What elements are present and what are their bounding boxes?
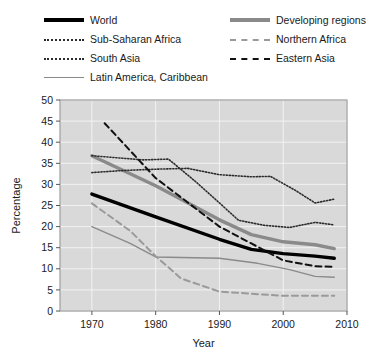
legend-swatch-icon bbox=[44, 18, 84, 22]
x-axis-title: Year bbox=[192, 337, 215, 349]
y-axis-title: Percentage bbox=[10, 177, 22, 233]
legend-swatch-icon bbox=[44, 39, 84, 41]
legend-label: Sub-Saharan Africa bbox=[90, 31, 181, 47]
y-tick-label: 25 bbox=[41, 199, 53, 211]
x-tick-label: 1990 bbox=[208, 318, 232, 330]
legend-label: Developing regions bbox=[276, 12, 366, 28]
y-tick-label: 5 bbox=[47, 284, 53, 296]
legend-label: Latin America, Caribbean bbox=[90, 69, 208, 85]
legend-label: South Asia bbox=[90, 50, 140, 66]
y-tick-label: 10 bbox=[41, 262, 53, 274]
y-tick-label: 15 bbox=[41, 241, 53, 253]
y-tick-label: 40 bbox=[41, 136, 53, 148]
y-tick-label: 50 bbox=[41, 94, 53, 106]
chart-figure: WorldSub-Saharan AfricaSouth AsiaLatin A… bbox=[0, 0, 375, 356]
legend-label: Eastern Asia bbox=[276, 50, 335, 66]
legend-label: Northern Africa bbox=[276, 31, 346, 47]
x-tick-label: 1980 bbox=[144, 318, 168, 330]
legend-swatch-icon bbox=[44, 77, 84, 78]
legend-label: World bbox=[90, 12, 117, 28]
line-chart-svg: 0510152025303540455019701980199020002010… bbox=[0, 92, 375, 356]
y-tick-label: 20 bbox=[41, 220, 53, 232]
y-tick-label: 35 bbox=[41, 157, 53, 169]
chart-legend: WorldSub-Saharan AfricaSouth AsiaLatin A… bbox=[44, 12, 374, 90]
legend-swatch-icon bbox=[230, 39, 270, 41]
y-tick-label: 45 bbox=[41, 115, 53, 127]
legend-swatch-icon bbox=[230, 58, 270, 60]
legend-swatch-icon bbox=[44, 58, 84, 60]
plot-area: 0510152025303540455019701980199020002010… bbox=[0, 92, 375, 356]
legend-swatch-icon bbox=[230, 18, 270, 22]
y-tick-label: 0 bbox=[47, 305, 53, 317]
x-tick-label: 2000 bbox=[272, 318, 296, 330]
y-tick-label: 30 bbox=[41, 178, 53, 190]
x-tick-label: 1970 bbox=[80, 318, 104, 330]
x-tick-label: 2010 bbox=[335, 318, 359, 330]
